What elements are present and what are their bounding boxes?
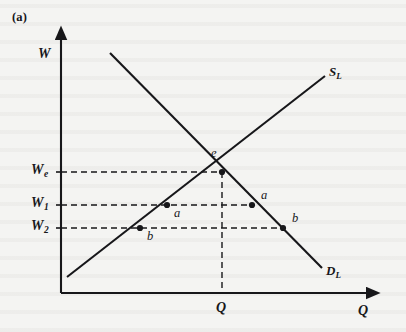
supply-curve (67, 76, 325, 277)
point-supply-a (164, 202, 170, 208)
point-label-demand-a: a (261, 188, 267, 203)
point-demand-b (280, 225, 286, 231)
point-label-supply-b: b (147, 229, 153, 244)
y-axis-label: W (38, 46, 50, 62)
demand-curve-label: DL (326, 263, 341, 279)
y-tick-label-w1: W1 (31, 195, 48, 211)
supply-curve-label: SL (329, 64, 342, 80)
point-label-demand-b: b (292, 211, 298, 226)
y-tick-label-w2: W2 (31, 218, 48, 234)
demand-curve-label-base: D (326, 263, 335, 278)
y-tick-label-w1-base: W (31, 195, 43, 210)
y-tick-label-w2-sub: 2 (44, 225, 49, 235)
y-tick-label-we: We (31, 162, 48, 178)
point-label-e: e (211, 146, 217, 161)
demand-curve-label-sub: L (335, 270, 341, 280)
supply-curve-label-sub: L (336, 71, 342, 81)
point-supply-b (137, 225, 143, 231)
point-label-supply-a: a (174, 206, 180, 221)
y-tick-label-w2-base: W (31, 218, 43, 233)
point-equilibrium-e (219, 169, 225, 175)
point-demand-a (249, 202, 255, 208)
y-tick-label-we-base: W (31, 162, 43, 177)
x-tick-label-q: Q (216, 300, 226, 316)
supply-demand-diagram (0, 0, 406, 332)
y-tick-label-we-sub: e (44, 169, 48, 179)
x-axis-label: Q (358, 303, 368, 319)
y-tick-label-w1-sub: 1 (44, 202, 49, 212)
